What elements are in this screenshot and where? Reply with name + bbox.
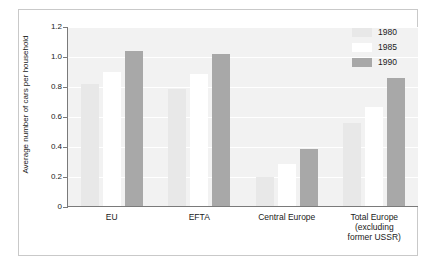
legend-label-1990: 1990	[378, 57, 397, 67]
x-axis-baseline	[68, 206, 418, 207]
chart-figure: Average number of cars per household 00.…	[0, 0, 438, 274]
legend-swatch-1990	[352, 58, 372, 67]
legend-item-1990: 1990	[352, 55, 414, 70]
y-tick-label: 0.6	[16, 113, 62, 121]
legend-label-1980: 1980	[378, 27, 397, 37]
y-axis-ticks: 00.20.40.60.81.01.2	[0, 0, 62, 274]
legend-swatch-1980	[352, 28, 372, 37]
x-axis-label-line: (excluding	[319, 222, 429, 232]
y-tick-label: 0.8	[16, 83, 62, 91]
bar-1980-total	[343, 123, 361, 207]
bar-1985-central	[278, 164, 296, 208]
bar-1985-eu	[103, 72, 121, 207]
bar-1980-efta	[168, 89, 186, 208]
bar-1990-total	[387, 78, 405, 207]
y-tick-label: 0	[16, 203, 62, 211]
y-tick-label: 1.0	[16, 53, 62, 61]
x-axis-label-line: Total Europe	[319, 212, 429, 222]
bar-1990-efta	[212, 54, 230, 207]
x-axis-label-line: former USSR)	[319, 232, 429, 242]
chart-legend: 198019851990	[352, 25, 414, 70]
x-axis-label-total: Total Europe(excludingformer USSR)	[319, 212, 429, 242]
legend-swatch-1985	[352, 43, 372, 52]
y-tick-label: 0.4	[16, 143, 62, 151]
y-tick-label: 1.2	[16, 23, 62, 31]
y-tick-label: 0.2	[16, 173, 62, 181]
bar-1990-eu	[125, 51, 143, 207]
bar-1980-central	[256, 177, 274, 207]
legend-label-1985: 1985	[378, 42, 397, 52]
bar-1990-central	[300, 149, 318, 208]
bar-1985-total	[365, 107, 383, 208]
legend-item-1985: 1985	[352, 40, 414, 55]
bar-1985-efta	[190, 74, 208, 208]
legend-item-1980: 1980	[352, 25, 414, 40]
bar-1980-eu	[81, 84, 99, 207]
